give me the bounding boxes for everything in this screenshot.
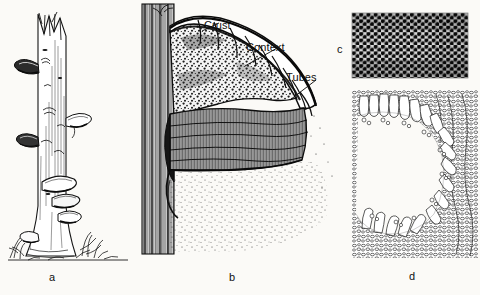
bracket-conk-3 bbox=[16, 134, 39, 147]
panel-d-tube-section bbox=[352, 90, 478, 258]
panel-letter-a: a bbox=[49, 272, 55, 283]
bracket-conk-6 bbox=[58, 211, 81, 223]
bracket-conk-7 bbox=[20, 232, 39, 243]
panel-letter-d: d bbox=[409, 271, 415, 282]
callout-label-context: Context bbox=[246, 42, 285, 53]
tube-layer bbox=[170, 108, 308, 171]
panel-letter-b: b bbox=[229, 272, 235, 283]
panel-letter-c: c bbox=[337, 44, 343, 55]
panel-b-section bbox=[140, 4, 345, 268]
bracket-conk-2 bbox=[66, 113, 91, 138]
bracket-conk-1 bbox=[14, 59, 39, 74]
pore-shade-right bbox=[436, 13, 468, 78]
callout-label-crust: Crust bbox=[204, 20, 231, 31]
figure-plate: Crust Context Tubes a b c d bbox=[0, 0, 480, 295]
panel-c-pore-surface bbox=[352, 13, 468, 78]
callout-label-tubes: Tubes bbox=[286, 72, 317, 83]
panel-a-birch-snag bbox=[8, 6, 128, 268]
bracket-conk-5 bbox=[52, 194, 80, 208]
